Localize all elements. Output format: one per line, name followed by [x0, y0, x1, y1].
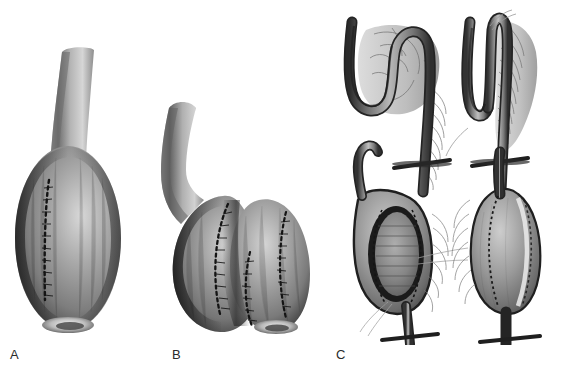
- panel-c-step-1: [349, 22, 452, 192]
- panel-b: B: [128, 0, 318, 345]
- panel-b-artwork: [128, 0, 318, 345]
- panel-c: C: [318, 0, 574, 345]
- panel-c-label: C: [336, 348, 346, 361]
- panel-c-artwork: [318, 0, 574, 345]
- panel-b-label: B: [172, 348, 181, 361]
- panel-a-label: A: [10, 348, 19, 361]
- panel-c-step-2: [446, 10, 537, 190]
- figure-canvas: A: [0, 0, 574, 371]
- panel-c-step-3: [354, 145, 468, 344]
